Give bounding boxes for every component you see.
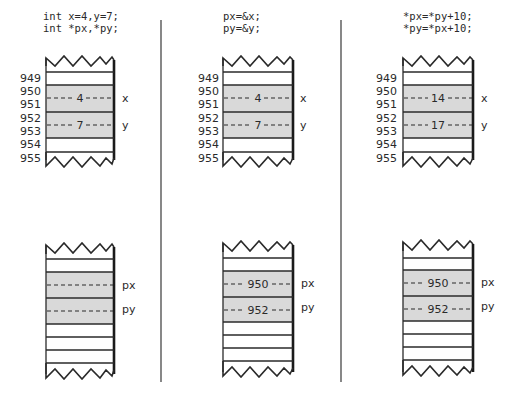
cell-value-py: 952 xyxy=(428,303,449,316)
var-label-py: py xyxy=(481,300,495,313)
zigzag-top xyxy=(223,241,293,252)
code-line-1: px=&x; xyxy=(223,10,261,22)
pointers-memory-block: px py xyxy=(46,243,136,379)
zigzag-bottom xyxy=(46,152,114,167)
var-label-py: py xyxy=(122,303,136,316)
address-955: 955 xyxy=(376,152,397,165)
cell-value-x: 4 xyxy=(255,92,262,105)
address-950: 950 xyxy=(198,85,219,98)
zigzag-bottom xyxy=(223,361,293,377)
panel-3: *px=*py+10; *py=*px+10; 14 17 x y 949 95… xyxy=(376,10,495,376)
panel-2: px=&x; py=&y; 4 7 x y 949 950 951 xyxy=(198,10,315,377)
zigzag-bottom xyxy=(223,152,293,167)
address-952: 952 xyxy=(376,112,397,125)
address-labels: 949 950 951 952 953 954 955 xyxy=(376,72,397,165)
address-952: 952 xyxy=(198,112,219,125)
var-label-py: py xyxy=(301,301,315,314)
cell-value-x: 4 xyxy=(77,92,84,105)
address-955: 955 xyxy=(20,152,41,165)
cell-value-py: 952 xyxy=(248,304,269,317)
address-955: 955 xyxy=(198,152,219,165)
cell-value-px: 950 xyxy=(428,277,449,290)
cell-value-px: 950 xyxy=(248,278,269,291)
code-line-1: *px=*py+10; xyxy=(403,10,473,22)
var-label-x: x xyxy=(481,92,488,105)
code-line-1: int x=4,y=7; xyxy=(43,10,119,22)
code-line-2: py=&y; xyxy=(223,22,261,34)
address-950: 950 xyxy=(20,85,41,98)
address-labels: 949 950 951 952 953 954 955 xyxy=(198,72,219,165)
zigzag-bottom xyxy=(403,152,473,167)
address-954: 954 xyxy=(376,138,397,151)
cell-value-x: 14 xyxy=(431,92,445,105)
address-951: 951 xyxy=(20,98,41,111)
cell-value-y: 7 xyxy=(255,119,262,132)
panel-1: int x=4,y=7; int *px,*py; 4 7 x y 949 95 xyxy=(20,10,136,379)
var-label-px: px xyxy=(301,277,315,290)
zigzag-top xyxy=(403,240,473,251)
address-949: 949 xyxy=(20,72,41,85)
var-label-x: x xyxy=(122,92,129,105)
var-label-y: y xyxy=(300,119,307,132)
variables-memory-block: 4 7 x y 949 950 951 952 953 954 955 xyxy=(198,56,307,167)
pointers-memory-block: 950 952 px py xyxy=(403,240,495,376)
code-line-2: int *px,*py; xyxy=(43,22,119,34)
var-label-x: x xyxy=(300,92,307,105)
address-949: 949 xyxy=(376,72,397,85)
address-953: 953 xyxy=(376,125,397,138)
zigzag-top xyxy=(403,56,473,66)
zigzag-top xyxy=(46,56,114,66)
code-line-2: *py=*px+10; xyxy=(403,22,473,34)
address-949: 949 xyxy=(198,72,219,85)
var-label-y: y xyxy=(481,119,488,132)
address-labels: 949 950 951 952 953 954 955 xyxy=(20,72,41,165)
var-label-px: px xyxy=(122,279,136,292)
address-954: 954 xyxy=(20,138,41,151)
pointer-memory-diagram: int x=4,y=7; int *px,*py; 4 7 x y 949 95 xyxy=(0,0,511,402)
cell-value-y: 17 xyxy=(431,119,445,132)
pointers-memory-block: 950 952 px py xyxy=(223,241,315,377)
variables-memory-block: 4 7 x y 949 950 951 952 953 954 955 xyxy=(20,56,129,167)
address-950: 950 xyxy=(376,85,397,98)
variables-memory-block: 14 17 x y 949 950 951 952 953 954 955 xyxy=(376,56,488,167)
var-label-px: px xyxy=(481,276,495,289)
zigzag-bottom xyxy=(46,363,114,379)
address-952: 952 xyxy=(20,112,41,125)
address-953: 953 xyxy=(198,125,219,138)
var-label-y: y xyxy=(122,119,129,132)
zigzag-top xyxy=(46,243,114,254)
address-954: 954 xyxy=(198,138,219,151)
address-953: 953 xyxy=(20,125,41,138)
cell-value-y: 7 xyxy=(77,119,84,132)
zigzag-bottom xyxy=(403,360,473,376)
address-951: 951 xyxy=(198,98,219,111)
address-951: 951 xyxy=(376,98,397,111)
zigzag-top xyxy=(223,56,293,66)
